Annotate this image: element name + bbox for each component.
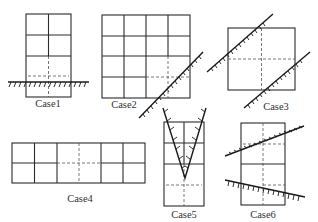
case2-label: Case2 [111, 99, 137, 110]
case3-label: Case3 [263, 101, 289, 112]
case6-lower-hatch-icon [228, 181, 299, 201]
cases-diagram: Case1 Case2 [0, 0, 318, 222]
case3-upper-boundary [207, 14, 273, 72]
case4-panel: Case4 [12, 143, 145, 204]
case1-label: Case1 [35, 98, 61, 109]
case5-panel: Case5 [163, 108, 206, 220]
case3-upper-hatch-icon [211, 23, 265, 71]
case2-boundary-hatch-icon [143, 56, 201, 117]
case3-panel: Case3 [207, 14, 310, 112]
case4-label: Case4 [67, 193, 93, 204]
figure-canvas: Case1 Case2 [0, 0, 318, 222]
case2-panel: Case2 [102, 15, 203, 118]
case5-label: Case5 [171, 209, 197, 220]
case1-ground-hatch-icon [9, 82, 86, 87]
case6-label: Case6 [250, 209, 276, 220]
case6-panel: Case6 [225, 123, 305, 220]
case1-panel: Case1 [8, 14, 89, 109]
case6-lower-boundary [225, 180, 305, 197]
